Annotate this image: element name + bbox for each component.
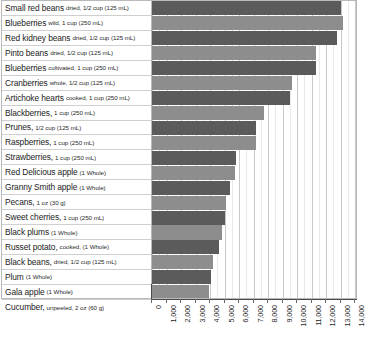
category-name: Black plums [5, 227, 49, 237]
x-axis-tick-label: 14,000 [357, 305, 366, 326]
category-label-row: Blueberriescultivated, 1 cup (250 mL) [2, 61, 151, 76]
x-axis-tick [166, 299, 167, 303]
bar-row [152, 61, 356, 76]
bar [152, 76, 292, 90]
y-axis-line [151, 284, 152, 300]
bar-row [152, 195, 356, 210]
bar [152, 166, 235, 180]
category-name: Artichoke hearts [5, 93, 64, 103]
category-label-row: Prunes,1/2 cup (125 mL) [2, 121, 151, 136]
category-label-row: Small red beansdried, 1/2 cup (125 mL) [2, 1, 151, 16]
x-axis-tick-label: 9,000 [285, 305, 294, 323]
category-qualifier: 1/2 cup (125 mL) [35, 124, 81, 131]
bar-row [152, 135, 356, 150]
bar [152, 1, 341, 15]
bar [152, 240, 219, 254]
category-name: Blueberries [5, 63, 46, 73]
x-axis-tick-label: 4,000 [212, 305, 221, 323]
category-name: Blueberries [5, 18, 46, 28]
x-axis-tick-label: 12,000 [328, 305, 337, 326]
bar-row [152, 76, 356, 91]
x-axis-tick-label: 7,000 [256, 305, 265, 323]
x-axis-tick-label: 2,000 [183, 305, 192, 323]
category-qualifier: (1 Whole) [51, 229, 77, 236]
category-name: Cucumber, [5, 302, 45, 312]
bar-row [152, 31, 356, 46]
bar [152, 31, 337, 45]
bar-row [152, 150, 356, 165]
category-name: Sweet cherries, [5, 212, 61, 222]
x-axis-tick-label: 0 [154, 305, 163, 309]
x-axis-tick [282, 299, 283, 303]
category-qualifier: 1 cup (250 mL) [54, 109, 95, 116]
category-name: Blackberries, [5, 108, 52, 118]
category-name: Strawberries, [5, 152, 53, 162]
category-qualifier: (1 Whole) [80, 169, 106, 176]
x-axis-tick [209, 299, 210, 303]
category-name: Raspberries, [5, 137, 51, 147]
x-axis-tick [151, 299, 152, 303]
bar [152, 121, 256, 135]
category-label-row: Pecans,1 oz (30 g) [2, 195, 151, 210]
category-label-row: Black beans,dried, 1/2 cup (125 mL) [2, 255, 151, 270]
category-label-panel: Small red beansdried, 1/2 cup (125 mL)Bl… [1, 0, 151, 299]
category-label-row: Pinto beansdried, 1/2 cup (125 mL) [2, 46, 151, 61]
bar [152, 255, 213, 269]
x-axis-line [151, 299, 357, 300]
bar-row [152, 180, 356, 195]
bar-row [152, 255, 356, 270]
bar-series [152, 1, 356, 298]
bar-row [152, 91, 356, 106]
category-qualifier: dried, 1/2 cup (125 mL) [50, 49, 113, 56]
category-qualifier: (1 Whole) [26, 273, 52, 280]
category-label-row: Black plums(1 Whole) [2, 225, 151, 240]
category-label-row: Sweet cherries,1 cup (250 mL) [2, 210, 151, 225]
x-axis-tick [195, 299, 196, 303]
category-qualifier: wild, 1 cup (250 mL) [48, 19, 103, 26]
x-axis-tick-label: 13,000 [343, 305, 352, 326]
category-qualifier: cooked, (1 Whole) [60, 243, 109, 250]
x-axis-tick [296, 299, 297, 303]
category-label-row: Plum(1 Whole) [2, 270, 151, 285]
bar [152, 136, 256, 150]
category-qualifier: cooked, 1 cup (250 mL) [66, 94, 130, 101]
x-axis-tick-label: 5,000 [227, 305, 236, 323]
x-axis-tick [311, 299, 312, 303]
category-label-row: Artichoke heartscooked, 1 cup (250 mL) [2, 91, 151, 106]
x-axis-tick-label: 11,000 [314, 305, 323, 326]
x-axis-tick-labels: 01,0002,0003,0004,0005,0006,0007,0008,00… [151, 305, 357, 342]
category-label-row: Cucumber,unpeeled, 2 oz (60 g) [2, 300, 151, 315]
x-axis-tick-label: 6,000 [241, 305, 250, 323]
x-axis-tick [180, 299, 181, 303]
category-qualifier: 1 cup (250 mL) [53, 139, 94, 146]
category-name: Prunes, [5, 122, 33, 132]
bar-row [152, 210, 356, 225]
category-qualifier: 1 oz (30 g) [37, 199, 66, 206]
category-qualifier: whole, 1/2 cup (125 mL) [50, 79, 115, 86]
category-label-row: Cranberrieswhole, 1/2 cup (125 mL) [2, 76, 151, 91]
category-name: Plum [5, 272, 24, 282]
category-label-row: Blueberrieswild, 1 cup (250 mL) [2, 16, 151, 31]
category-name: Red kidney beans [5, 33, 70, 43]
bar-row [152, 165, 356, 180]
category-label-row: Red kidney beansdried, 1/2 cup (125 mL) [2, 31, 151, 46]
category-label-row: Russet potato,cooked, (1 Whole) [2, 240, 151, 255]
category-name: Granny Smith apple [5, 182, 77, 192]
bar [152, 46, 316, 60]
category-qualifier: 1 cup (250 mL) [63, 214, 104, 221]
category-name: Small red beans [5, 3, 64, 13]
x-axis-tick [238, 299, 239, 303]
bar [152, 151, 236, 165]
bar [152, 181, 230, 195]
x-axis-tick-label: 8,000 [270, 305, 279, 323]
category-name: Pinto beans [5, 48, 48, 58]
x-axis-tick [224, 299, 225, 303]
bar-row [152, 16, 356, 31]
category-qualifier: 1 cup (250 mL) [55, 154, 96, 161]
x-axis-tick [325, 299, 326, 303]
category-qualifier: unpeeled, 2 oz (60 g) [47, 304, 104, 311]
bar [152, 106, 264, 120]
category-name: Pecans, [5, 197, 35, 207]
category-qualifier: dried, 1/2 cup (125 mL) [54, 258, 117, 265]
